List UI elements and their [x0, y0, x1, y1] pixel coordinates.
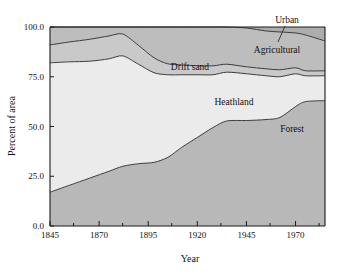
y-tick-label: 50.0 [28, 122, 44, 132]
figure-container: 0.025.050.075.0100.0 1845187018951920194… [0, 0, 342, 272]
y-tick-label: 75.0 [28, 72, 44, 82]
x-tick-label: 1870 [90, 230, 109, 240]
series-label-drift-sand: Drift sand [171, 62, 210, 72]
x-tick-label: 1920 [188, 230, 207, 240]
x-axis-title: Year [181, 253, 200, 264]
x-tick-label: 1895 [139, 230, 158, 240]
y-tick-label: 25.0 [28, 171, 44, 181]
x-axis-tick-labels: 184518701895192019451970 [41, 230, 305, 240]
series-label-heathland: Heathland [214, 97, 253, 107]
y-tick-label: 100.0 [24, 22, 45, 32]
y-axis-title: Percent of area [6, 95, 17, 156]
y-axis-tick-labels: 0.025.050.075.0100.0 [24, 22, 45, 231]
series-label-agricultural: Agricultural [254, 45, 301, 55]
x-tick-label: 1945 [237, 230, 256, 240]
series-label-forest: Forest [280, 124, 304, 134]
x-tick-label: 1970 [287, 230, 306, 240]
x-tick-label: 1845 [41, 230, 60, 240]
stacked-area-chart: 0.025.050.075.0100.0 1845187018951920194… [0, 0, 342, 272]
series-label-urban: Urban [275, 15, 299, 25]
